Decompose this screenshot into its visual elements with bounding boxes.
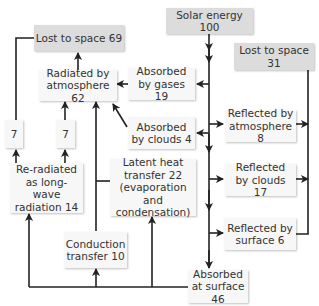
reflected-by-surface-box: Reflected by surface 6 [224,218,296,250]
seven-right-label: 7 [62,128,69,141]
reflected-by-atmosphere-label: Reflected by atmosphere 8 [227,107,294,145]
conduction-box: Conduction transfer 10 [64,232,127,268]
reflected-by-clouds-box: Reflected by clouds 17 [225,164,296,196]
latent-heat-box: Latent heat transfer 22 (evaporation and… [110,159,196,216]
absorbed-by-gases-label: Absorbed by gases 19 [131,65,192,103]
seven-left-box: 7 [5,120,23,148]
solar-energy-box: Solar energy 100 [166,8,253,34]
lost-to-space-69-box: Lost to space 69 [34,25,124,51]
lost-to-space-69-label: Lost to space 69 [36,32,122,45]
re-radiated-label: Re-radiated as long-wave radiation 14 [13,163,80,213]
absorbed-at-surface-box: Absorbed at surface 46 [188,270,248,303]
reflected-by-clouds-label: Reflected by clouds 17 [228,161,293,199]
re-radiated-box: Re-radiated as long-wave radiation 14 [10,163,83,213]
absorbed-by-gases-box: Absorbed by gases 19 [128,68,195,100]
latent-heat-label: Latent heat transfer 22 (evaporation and… [112,156,194,219]
lost-to-space-31-box: Lost to space 31 [234,43,314,70]
absorbed-by-clouds-label: Absorbed by clouds 4 [131,121,192,146]
radiated-by-atmosphere-box: Radiated by atmosphere 62 [39,70,117,101]
conduction-label: Conduction transfer 10 [66,238,126,263]
solar-energy-label: Solar energy 100 [166,9,253,34]
radiated-by-atmosphere-label: Radiated by atmosphere 62 [41,67,115,105]
reflected-by-surface-label: Reflected by surface 6 [227,222,293,247]
absorbed-at-surface-label: Absorbed at surface 46 [190,268,246,306]
seven-left-label: 7 [11,128,18,141]
lost-to-space-31-label: Lost to space 31 [234,44,314,69]
reflected-by-atmosphere-box: Reflected by atmosphere 8 [225,110,296,142]
seven-right-box: 7 [56,120,75,148]
absorbed-by-clouds-box: Absorbed by clouds 4 [128,117,195,149]
